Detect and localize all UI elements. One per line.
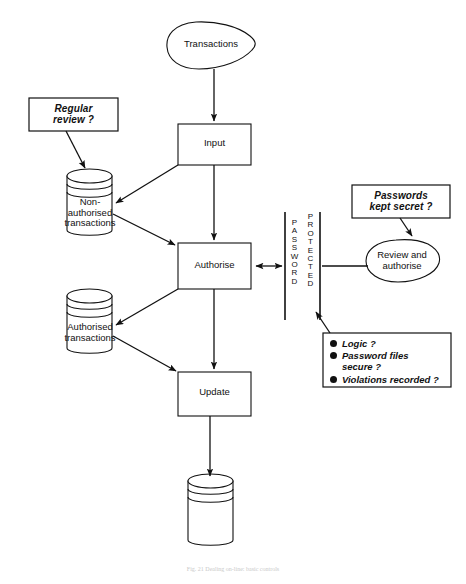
callout-passwords-secret-shape	[352, 185, 450, 218]
node-input-shape	[178, 124, 251, 165]
node-master-store-shape	[188, 474, 233, 545]
bullet-dot-icon	[330, 340, 337, 347]
figure-caption: Fig. 21 Dealing on-line: basic controls	[0, 566, 466, 572]
node-transactions-shape	[167, 22, 255, 69]
barrier-protected-label: P R O T E C T E D	[305, 213, 316, 289]
bullet-dot-icon	[330, 352, 337, 359]
node-authorise-shape	[178, 243, 251, 289]
node-review-authorise-shape	[366, 240, 440, 282]
checklist-item: Violations recorded ?	[330, 374, 447, 385]
edge-non-authorised-to-authorise	[113, 214, 175, 245]
leader-checks	[316, 312, 330, 333]
checklist-item-label: Logic ?	[342, 338, 376, 349]
callout-regular-review-shape	[29, 98, 118, 131]
leader-passwords-secret	[400, 218, 412, 236]
edge-authorise-to-authorised	[116, 289, 178, 325]
barrier-password-label: P A S S W O R D	[289, 219, 300, 286]
node-authorised-store-shape	[67, 289, 112, 353]
bullet-dot-icon	[330, 376, 337, 383]
checklist-item: Logic ?	[330, 338, 447, 349]
edge-authorised-to-update	[113, 336, 176, 371]
barrier-protected-letter: D	[305, 280, 316, 288]
flowchart-diagram: Transactions Input Authorise Update Non-…	[0, 0, 466, 584]
checklist-item-label: Violations recorded ?	[342, 374, 439, 385]
leader-regular-review	[66, 131, 85, 168]
node-non-authorised-store-shape	[67, 169, 112, 235]
callout-checks-list: Logic ? Password files secure ? Violatio…	[323, 333, 451, 390]
diagram-canvas	[0, 0, 466, 584]
node-update-shape	[178, 372, 251, 416]
checklist-item-label: Password files secure ?	[342, 350, 409, 372]
edge-input-to-non-authorised	[116, 165, 178, 203]
checklist-item: Password files secure ?	[330, 350, 447, 372]
barrier-password-letter: D	[289, 278, 300, 286]
